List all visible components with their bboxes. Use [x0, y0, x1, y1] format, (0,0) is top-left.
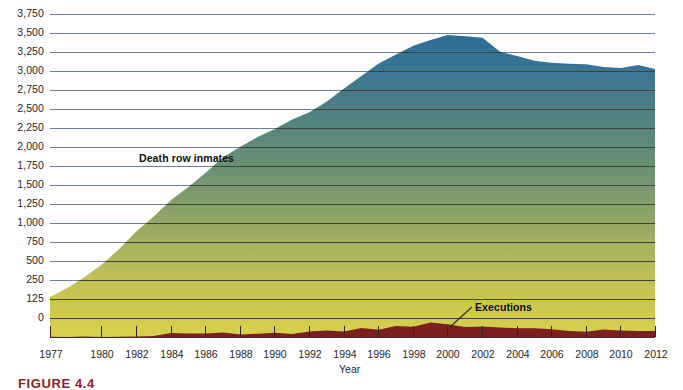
x-tick-label: 2010: [609, 349, 632, 360]
figure-container: 3,750 3,500 3,250 3,000 2,750 2,500 2,25…: [0, 0, 683, 390]
y-tick-label: 750: [0, 236, 44, 247]
y-tick-label: 1,250: [0, 198, 44, 209]
x-axis-title: Year: [339, 363, 360, 375]
x-tick-label: 1988: [229, 349, 252, 360]
y-tick-label: 250: [0, 274, 44, 285]
y-tick-label: 3,250: [0, 46, 44, 57]
x-tick-label: 2012: [644, 349, 667, 360]
series-label-executions: Executions: [475, 301, 532, 313]
x-tick-label: 1977: [39, 349, 62, 360]
x-tick-label: 1992: [298, 349, 321, 360]
y-tick-label: 500: [0, 255, 44, 266]
x-tick-label: 2002: [471, 349, 494, 360]
figure-caption: FIGURE 4.4: [18, 376, 95, 390]
y-tick-label: 0: [0, 312, 44, 323]
y-tick-label: 1,500: [0, 179, 44, 190]
y-tick-label: 3,500: [0, 27, 44, 38]
series-label-death-row: Death row inmates: [139, 152, 234, 164]
x-tick-label: 1986: [194, 349, 217, 360]
chart-plot-area: [0, 0, 683, 390]
x-tick-label: 1980: [90, 349, 113, 360]
x-tick-label: 2004: [506, 349, 529, 360]
y-tick-label: 3,000: [0, 65, 44, 76]
x-tick-label: 2006: [540, 349, 563, 360]
y-tick-label: 1,750: [0, 160, 44, 171]
x-tick-label: 1994: [333, 349, 356, 360]
x-tick-label: 2000: [436, 349, 459, 360]
y-tick-label: 2,250: [0, 122, 44, 133]
x-tick-label: 2008: [575, 349, 598, 360]
y-tick-label: 2,500: [0, 103, 44, 114]
y-tick-label: 1,000: [0, 217, 44, 228]
y-tick-label: 2,000: [0, 141, 44, 152]
y-tick-label: 3,750: [0, 8, 44, 19]
x-tick-label: 1998: [402, 349, 425, 360]
y-tick-label: 2,750: [0, 84, 44, 95]
x-tick-label: 1982: [125, 349, 148, 360]
x-tick-label: 1990: [263, 349, 286, 360]
x-tick-label: 1996: [367, 349, 390, 360]
y-tick-label: 125: [0, 293, 44, 304]
x-tick-label: 1984: [160, 349, 183, 360]
